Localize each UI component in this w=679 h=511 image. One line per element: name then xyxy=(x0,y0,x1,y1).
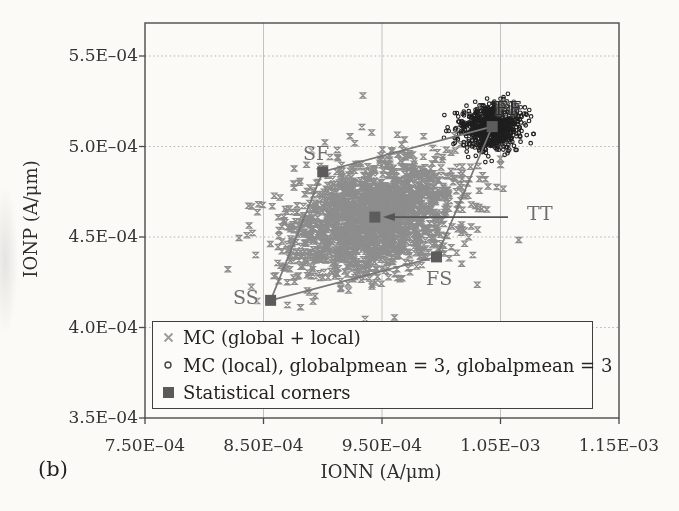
y-tick-label: 5.0E–04 xyxy=(46,136,138,156)
figure-panel-b: 5.5E–045.0E–044.5E–044.0E–043.5E–04 7.50… xyxy=(0,0,679,511)
legend-label: MC (global + local) xyxy=(183,327,361,348)
x-tick-label: 7.50E–04 xyxy=(90,435,200,455)
x-marker-icon xyxy=(153,331,183,344)
corner-label-tt: TT xyxy=(527,202,553,224)
corner-label-ss: SS xyxy=(233,286,259,308)
x-axis-title: IONN (A/μm) xyxy=(321,461,442,482)
corner-marker-sf xyxy=(317,166,328,177)
x-tick-label: 9.50E–04 xyxy=(327,435,437,455)
x-tick-label: 8.50E–04 xyxy=(209,435,319,455)
legend-row-mc-local: MC (local), globalpmean = 3, globalpmean… xyxy=(153,352,592,379)
legend: MC (global + local) MC (local), globalpm… xyxy=(152,321,593,409)
legend-row-mc-global-local: MC (global + local) xyxy=(153,324,592,351)
corner-marker-tt xyxy=(369,212,380,223)
y-tick-label: 3.5E–04 xyxy=(46,407,138,427)
y-tick-label: 5.5E–04 xyxy=(46,45,138,65)
figure-sublabel: (b) xyxy=(38,457,68,481)
y-axis-title: IONP (A/μm) xyxy=(20,160,41,277)
legend-row-statistical-corners: Statistical corners xyxy=(153,379,592,406)
legend-label: Statistical corners xyxy=(183,382,350,403)
corner-label-ff: FF xyxy=(495,97,521,119)
circle-marker-icon xyxy=(153,359,183,371)
x-tick-label: 1.15E–03 xyxy=(564,435,674,455)
x-tick-label: 1.05E–03 xyxy=(446,435,556,455)
corner-marker-ss xyxy=(265,295,276,306)
tt-arrowhead-icon xyxy=(383,213,395,221)
square-marker-icon xyxy=(153,386,183,399)
corner-label-sf: SF xyxy=(303,142,329,164)
corner-label-fs: FS xyxy=(426,267,452,289)
y-tick-label: 4.0E–04 xyxy=(46,317,138,337)
corner-marker-fs xyxy=(431,251,442,262)
legend-label: MC (local), globalpmean = 3, globalpmean… xyxy=(183,355,612,376)
y-tick-label: 4.5E–04 xyxy=(46,226,138,246)
corner-marker-ff xyxy=(487,121,498,132)
